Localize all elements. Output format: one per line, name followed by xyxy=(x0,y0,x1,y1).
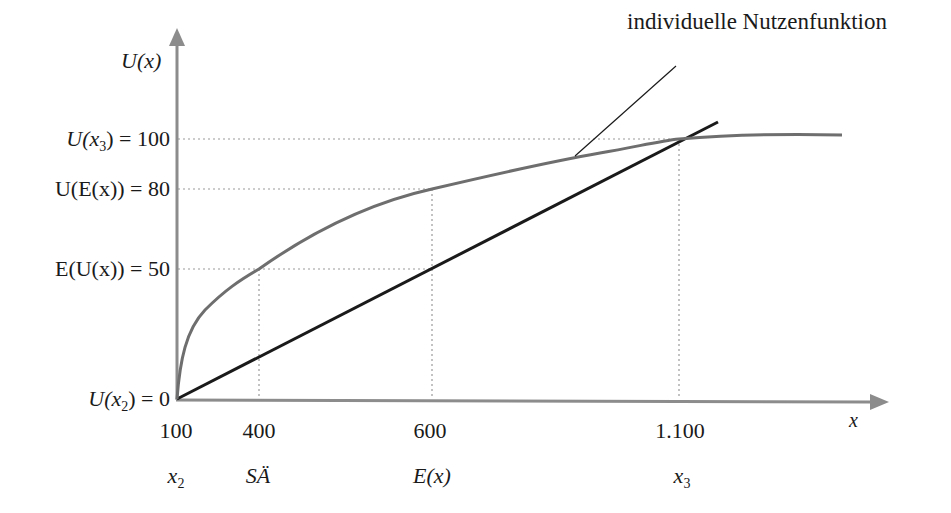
x-tick-400: 400 xyxy=(243,420,276,442)
x-tick-100: 100 xyxy=(160,420,193,442)
x-tick-600: 600 xyxy=(414,420,447,442)
x-symbol-x3-base: x xyxy=(674,463,684,488)
y-label-0: U(x2) = 0 xyxy=(0,388,170,414)
x-axis-title: x xyxy=(849,410,858,430)
x-symbol-x2-base: x xyxy=(168,463,178,488)
x-tick-1100: 1.100 xyxy=(655,420,705,442)
y-label-50: E(U(x)) = 50 xyxy=(0,258,170,280)
y-label-100-pre: U(x xyxy=(66,126,99,151)
x-symbol-sa: SÄ xyxy=(246,465,270,487)
y-label-80: U(E(x)) = 80 xyxy=(0,178,170,200)
y-axis-title-arg: (x) xyxy=(137,48,161,73)
x-symbol-x3: x3 xyxy=(674,465,691,491)
y-axis-title-u: U xyxy=(121,48,137,73)
x-symbol-x2-sub: 2 xyxy=(177,476,184,491)
x-symbol-x2: x2 xyxy=(168,465,185,491)
curve-annotation: individuelle Nutzenfunktion xyxy=(627,10,887,33)
y-label-100-post: ) = 100 xyxy=(106,126,170,151)
utility-curve xyxy=(177,134,842,399)
y-axis-title: U(x) xyxy=(121,50,161,72)
y-label-0-post: ) = 0 xyxy=(128,386,170,411)
y-label-100: U(x3) = 100 xyxy=(0,128,170,154)
y-label-0-pre: U(x xyxy=(88,386,121,411)
linear-line xyxy=(177,122,718,399)
x-symbol-x3-sub: 3 xyxy=(683,476,690,491)
x-symbol-ex: E(x) xyxy=(413,465,451,487)
